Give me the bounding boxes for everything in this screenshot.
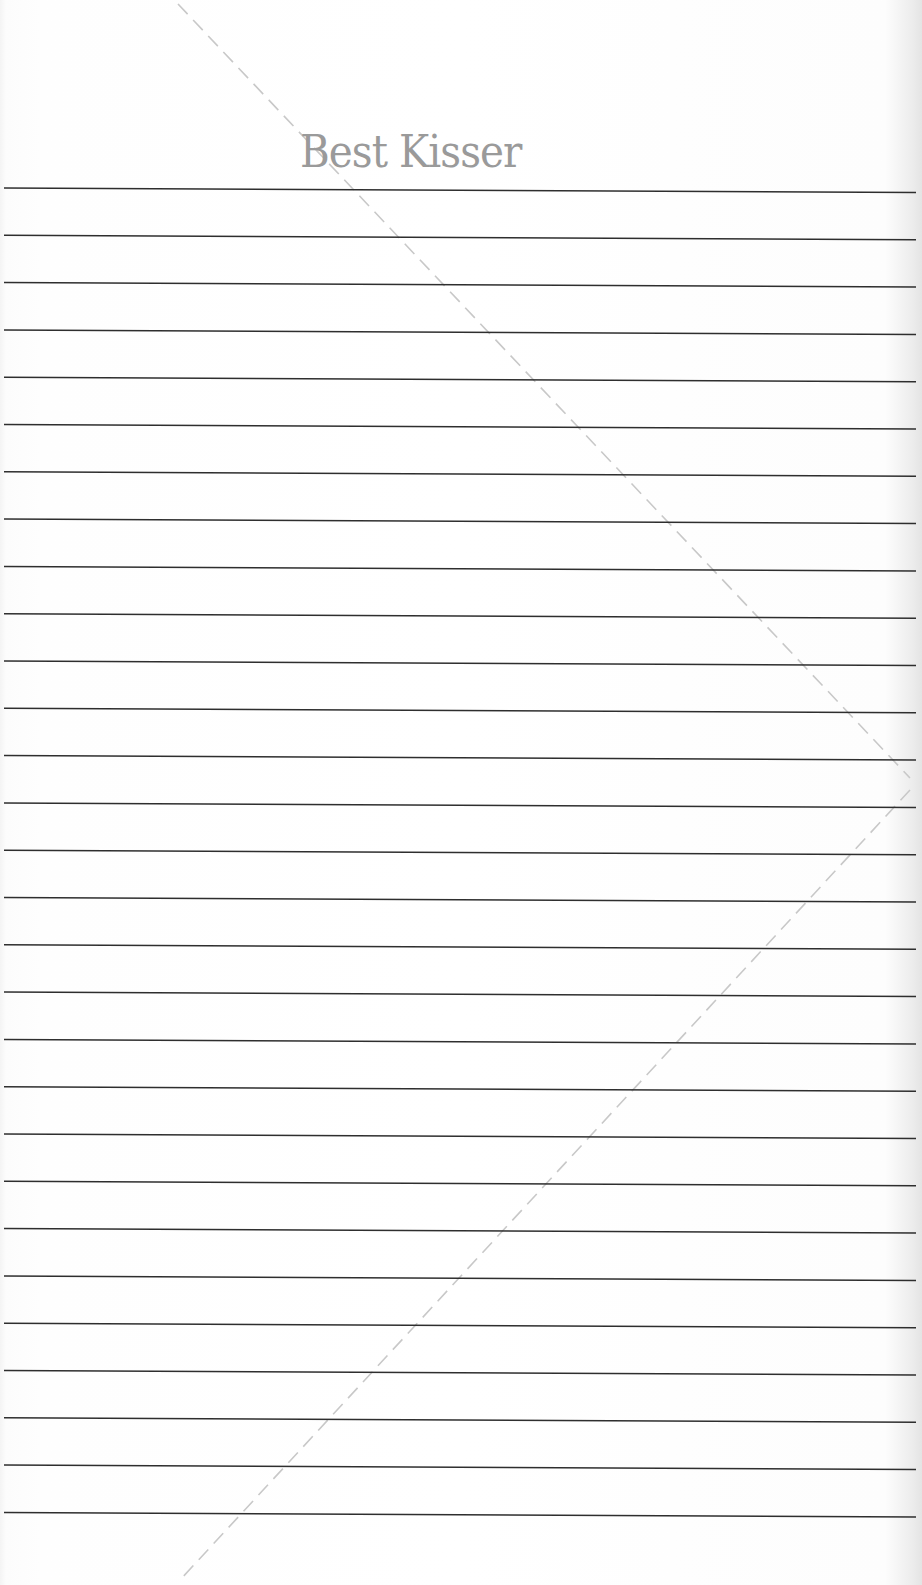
ruled-line (4, 1229, 916, 1234)
ruled-line (4, 283, 916, 288)
ruled-line (4, 803, 916, 808)
ruled-line (4, 1512, 916, 1517)
ruled-line (4, 425, 916, 430)
page-title: Best Kisser (300, 126, 522, 177)
ruled-line (4, 235, 916, 240)
ruled-line (4, 1134, 916, 1139)
ruled-line (4, 661, 916, 666)
notepad-page: Best Kisser (0, 0, 922, 1585)
ruled-line (4, 1323, 916, 1328)
ruled-line (4, 708, 916, 713)
ruled-line (4, 330, 916, 335)
ruled-line (4, 188, 916, 193)
ruled-line (4, 992, 916, 997)
ruled-line (4, 850, 916, 855)
ruled-line (4, 1465, 916, 1470)
ruled-line (4, 898, 916, 903)
ruled-line (4, 614, 916, 619)
ruled-line (4, 472, 916, 477)
ruled-line (4, 1039, 916, 1044)
ruled-line (4, 1276, 916, 1281)
ruled-line (4, 566, 916, 571)
ruled-line (4, 1418, 916, 1423)
ruled-line (4, 377, 916, 382)
ruled-line (4, 1181, 916, 1186)
ruled-line (4, 1371, 916, 1376)
ruled-line (4, 756, 916, 761)
ruled-line (4, 519, 916, 524)
ruled-line (4, 1087, 916, 1092)
ruled-lines (0, 0, 922, 1585)
ruled-line (4, 945, 916, 950)
